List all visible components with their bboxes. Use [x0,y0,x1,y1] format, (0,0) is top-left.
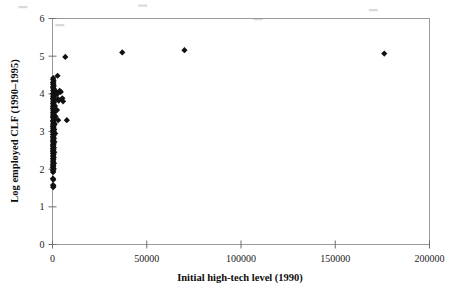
scan-speck [138,5,147,7]
y-tick-label: 1 [40,201,45,212]
data-point-marker [62,54,68,60]
scan-speck [55,24,64,26]
data-point-marker [64,117,70,123]
x-axis-title: Initial high-tech level (1990) [177,272,303,284]
y-tick-label: 3 [40,126,45,137]
scan-speck [369,9,378,11]
y-tick-label: 5 [40,51,45,62]
y-tick-label: 6 [40,13,45,24]
data-point-series [50,47,388,190]
data-point-marker [119,49,125,55]
x-tick-label: 0 [50,253,55,264]
y-tick-label: 2 [40,164,45,175]
x-tick-label: 150000 [320,253,350,264]
data-point-marker [381,50,387,56]
data-point-marker [181,47,187,53]
x-tick-label: 100000 [226,253,256,264]
y-tick-label: 4 [40,88,45,99]
x-tick-label: 50000 [134,253,159,264]
x-axis-tick-labels: 050000100000150000200000 [50,253,445,264]
plot-canvas: 0123456 050000100000150000200000 Initial… [0,0,461,301]
y-tick-label: 0 [40,239,45,250]
x-tick-label: 200000 [415,253,445,264]
scatter-plot-figure: 0123456 050000100000150000200000 Initial… [0,0,461,301]
plot-frame [53,19,430,245]
scan-speck [18,6,27,8]
y-axis-tick-labels: 0123456 [40,13,45,250]
y-axis-title: Log employed CLF (1990–1995) [9,59,21,203]
scan-artifacts [18,5,377,27]
